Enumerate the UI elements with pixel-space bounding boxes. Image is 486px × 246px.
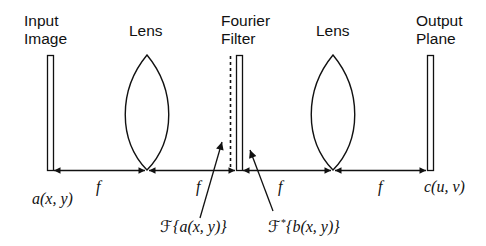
distance-f-2: f <box>196 178 200 196</box>
distance-f-4: f <box>378 178 382 196</box>
fourier-transform-arg: {a(x, y)} <box>173 218 227 235</box>
optical-diagram: Input Image Lens Fourier Filter Lens Out… <box>0 0 486 246</box>
fourier-transform-pointer <box>200 142 222 218</box>
output-field-label: c(u, v) <box>424 178 465 196</box>
distance-f-3: f <box>278 178 282 196</box>
lens-1 <box>125 55 169 170</box>
filter-function-arg: {b(x, y)} <box>286 218 340 235</box>
fourier-transform-label: ℱ{a(x, y)} <box>160 217 227 236</box>
distance-f-1: f <box>96 178 100 196</box>
fourier-operator-symbol-conj: ℱ <box>268 217 281 236</box>
fourier-operator-symbol: ℱ <box>160 217 173 236</box>
optics-drawing <box>0 0 486 246</box>
filter-function-label: ℱ*{b(x, y)} <box>268 217 340 236</box>
filter-pointer <box>250 150 273 211</box>
output-plane <box>428 56 434 171</box>
lens-2 <box>311 55 355 170</box>
input-plane <box>48 56 54 171</box>
input-field-label: a(x, y) <box>32 190 73 208</box>
fourier-filter-plate <box>237 56 243 171</box>
